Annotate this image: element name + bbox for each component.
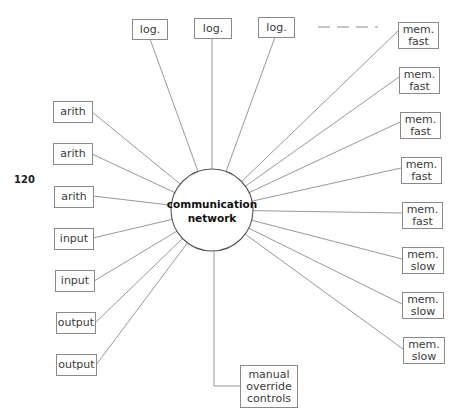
architecture-diagram: communication network log.log.log.mem.fa… xyxy=(0,0,462,419)
node-label: slow xyxy=(411,305,436,318)
node-log-2: log. xyxy=(195,19,232,39)
node-input-1: input xyxy=(55,229,94,250)
communication-network-hub: communication network xyxy=(167,169,258,251)
hub-circle xyxy=(171,169,253,251)
node-mem-fast-4: mem.fast xyxy=(402,158,442,184)
node-label: slow xyxy=(412,350,437,363)
node-label: arith xyxy=(60,147,86,160)
node-label: output xyxy=(58,316,95,329)
node-label: output xyxy=(58,358,95,371)
node-output-1: output xyxy=(57,313,96,334)
node-label: fast xyxy=(412,215,433,228)
node-label: slow xyxy=(411,260,436,273)
node-mem-fast-2: mem.fast xyxy=(400,68,440,94)
node-label: input xyxy=(60,232,89,245)
node-log-3: log. xyxy=(259,18,295,38)
node-label: fast xyxy=(410,125,431,138)
node-label: controls xyxy=(247,392,291,405)
hub-label-line-1: communication xyxy=(167,198,258,210)
node-label: log. xyxy=(140,23,160,36)
node-arith-3: arith xyxy=(55,187,94,208)
node-label: input xyxy=(61,274,90,287)
node-label: arith xyxy=(61,190,87,203)
link-manual-override-controls xyxy=(214,249,240,386)
node-manual-override-controls: manualoverridecontrols xyxy=(241,366,298,408)
node-mem-slow-2: mem.slow xyxy=(403,293,444,319)
node-label: log. xyxy=(266,21,286,34)
node-arith-1: arith xyxy=(54,102,93,123)
node-mem-fast-1: mem.fast xyxy=(399,23,439,49)
node-log-1: log. xyxy=(133,20,168,40)
node-output-2: output xyxy=(57,355,97,376)
node-mem-slow-1: mem.slow xyxy=(403,248,444,274)
node-mem-slow-3: mem.slow xyxy=(404,338,445,364)
node-label: fast xyxy=(409,80,430,93)
hub-label-line-2: network xyxy=(188,212,238,224)
node-mem-fast-3: mem.fast xyxy=(401,113,441,139)
page-number: 120 xyxy=(14,174,35,185)
node-label: fast xyxy=(411,170,432,183)
node-mem-fast-5: mem.fast xyxy=(403,203,443,229)
node-input-2: input xyxy=(56,271,95,292)
node-label: arith xyxy=(60,105,86,118)
node-label: log. xyxy=(203,22,223,35)
node-arith-2: arith xyxy=(54,144,93,165)
node-label: fast xyxy=(408,35,429,48)
